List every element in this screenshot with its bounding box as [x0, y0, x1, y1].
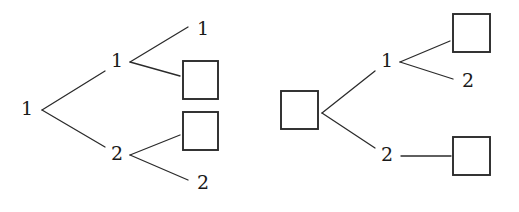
edge-node1-to-leaf2 [400, 62, 453, 79]
edge-node2-to-leaf3 [130, 135, 180, 155]
right-tree-leaf-3-box [453, 137, 490, 175]
tree-diagram-canvas: 1 1 2 1 2 1 2 [0, 0, 519, 212]
edge-node1-to-leaf2 [130, 62, 180, 76]
right-tree-leaf-2-label: 2 [462, 69, 474, 91]
right-tree-leaf-1-box [453, 14, 490, 52]
right-tree-nodes: 1 2 2 [281, 14, 490, 175]
left-tree-node-2-label: 2 [111, 142, 123, 164]
edge-rootbox-to-node1 [322, 71, 375, 113]
edge-rootbox-to-node2 [322, 113, 375, 148]
left-tree-leaf-1-label: 1 [197, 17, 209, 39]
left-tree: 1 1 2 1 2 [21, 17, 218, 193]
left-tree-leaf-2-box [183, 61, 218, 99]
left-tree-leaf-3-box [183, 112, 218, 150]
left-tree-leaf-4-label: 2 [197, 171, 209, 193]
left-tree-node-1-label: 1 [111, 49, 123, 71]
right-tree-node-1-label: 1 [381, 49, 393, 71]
edge-node2-to-leaf4 [130, 155, 188, 180]
right-tree-node-2-label: 2 [381, 143, 393, 165]
right-tree-root-box [281, 91, 318, 129]
edge-node1-to-leafbox1 [400, 41, 450, 62]
edge-node1-to-leaf1 [130, 27, 188, 62]
right-tree: 1 2 2 [281, 14, 490, 175]
tree-diagram-figure: 1 1 2 1 2 1 2 [0, 0, 519, 212]
edge-root-to-node2 [42, 110, 105, 147]
edge-root-to-node1 [42, 71, 105, 110]
left-tree-root-label: 1 [21, 97, 33, 119]
